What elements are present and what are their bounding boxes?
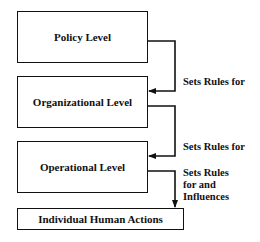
edge-organizational-to-operational [147, 106, 175, 156]
individual-human-actions-box: Individual Human Actions [17, 208, 184, 230]
organizational-level-label: Organizational Level [33, 96, 132, 108]
edge-operational-to-individual [147, 171, 175, 207]
operational-level-label: Operational Level [40, 161, 125, 173]
policy-level-label: Policy Level [54, 31, 111, 43]
operational-level-box: Operational Level [17, 141, 148, 193]
edge-policy-to-organizational [147, 41, 175, 91]
edge-label-3: Sets Rules for and Influences [183, 167, 229, 203]
hierarchy-diagram: Policy Level Organizational Level Operat… [0, 0, 260, 242]
individual-human-actions-label: Individual Human Actions [38, 213, 163, 225]
edge-label-2: Sets Rules for [183, 141, 245, 153]
edge-label-1: Sets Rules for [183, 76, 245, 88]
policy-level-box: Policy Level [17, 11, 148, 63]
organizational-level-box: Organizational Level [17, 76, 148, 128]
